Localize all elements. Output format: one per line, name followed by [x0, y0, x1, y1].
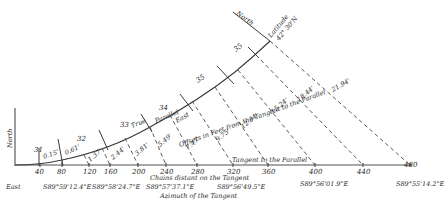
- range-number: 33: [120, 121, 129, 129]
- offset-label: 5.49': [156, 132, 174, 149]
- chain-label: 480: [403, 161, 418, 169]
- north-label: North: [6, 128, 14, 149]
- chain-label: 200: [131, 168, 146, 176]
- azimuth-value: S89°57'37.1"E: [146, 183, 194, 191]
- azimuth-value: S89°59'12.4"E: [43, 183, 91, 191]
- azimuth-value: S89°56'49.5"E: [217, 183, 265, 191]
- azimuth-value: S89°55'14.2"E: [396, 180, 444, 188]
- true-label: True: [130, 117, 147, 130]
- range-number: 34: [159, 104, 168, 112]
- chain-label: 80: [57, 168, 66, 176]
- tangent-label: Tangent to the Parallel: [232, 156, 307, 164]
- range-number: 35: [232, 41, 244, 53]
- offset-label: 0.61': [63, 143, 81, 157]
- chain-label: 160: [104, 168, 118, 176]
- range-line: [99, 130, 108, 150]
- chain-label: 120: [83, 168, 97, 176]
- north-diagonal-label: North: [234, 9, 255, 28]
- azimuth-value: S89°58'24.7"E: [92, 183, 140, 191]
- azimuth-label: Azimuth of the Tangent: [159, 192, 238, 200]
- offset-label: 3.81': [133, 141, 151, 158]
- offset-label: 21.94': [329, 76, 352, 94]
- range-number: 35: [195, 73, 207, 85]
- azimuth-value: S89°56'01.9"E: [300, 180, 348, 188]
- range-number: 32: [77, 135, 86, 143]
- chain-label: 400: [308, 168, 323, 176]
- chains-label: Chains distant on the Tangent: [150, 174, 250, 182]
- east-label: East: [5, 183, 21, 191]
- offset-label: 0.15': [42, 148, 60, 161]
- offset-label: 2.44': [108, 145, 127, 162]
- chain-label: 440: [356, 168, 371, 176]
- survey-diagram: 40 80 120 160 200 240 280 320 360 400 44…: [0, 0, 448, 205]
- chain-label: 40: [34, 168, 44, 176]
- chain-label: 360: [262, 168, 276, 176]
